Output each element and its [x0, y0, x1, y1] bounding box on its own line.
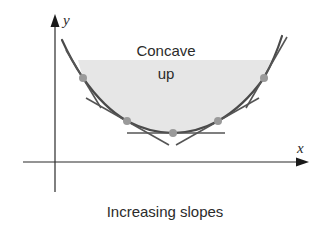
x-axis-arrow-icon — [296, 158, 309, 167]
diagram-svg: y x Concave up Increasing slopes — [0, 0, 320, 233]
caption-increasing-slopes: Increasing slopes — [107, 203, 224, 220]
region-label-concave: Concave — [136, 42, 195, 59]
x-axis-label: x — [296, 140, 304, 156]
y-axis-arrow-icon — [51, 14, 60, 27]
region-label-up: up — [158, 65, 175, 82]
tangent-point-1 — [79, 74, 87, 82]
tangent-point-4 — [214, 117, 222, 125]
tangent-point-2 — [123, 117, 131, 125]
concavity-diagram: y x Concave up Increasing slopes — [0, 0, 320, 233]
tangent-point-5 — [260, 74, 268, 82]
y-axis-label: y — [61, 12, 70, 28]
concave-up-shaded-region — [78, 60, 271, 133]
tangent-point-3 — [169, 129, 177, 137]
